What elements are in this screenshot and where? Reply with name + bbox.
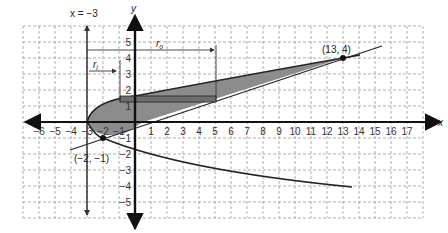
x-tick-label: 14 (353, 126, 365, 137)
y-axis-label: y (130, 3, 137, 14)
x-tick-label: 8 (260, 126, 266, 137)
x-tick-label: −4 (65, 126, 77, 137)
x-tick-label: 10 (289, 126, 301, 137)
y-tick-label: 3 (125, 69, 131, 80)
y-tick-label: −1 (120, 133, 132, 144)
x-tick-label: −6 (33, 126, 45, 137)
x-tick-labels: −6−5−4−3−2−11234567891011121314151617 (33, 126, 413, 137)
point-label-neg2-neg1: (−2, −1) (74, 153, 109, 164)
y-tick-label: −3 (120, 165, 132, 176)
x-tick-label: 2 (164, 126, 170, 137)
x-tick-label: 3 (180, 126, 186, 137)
x-tick-label: −2 (97, 126, 109, 137)
x-tick-label: −5 (49, 126, 61, 137)
y-tick-label: 4 (125, 53, 131, 64)
point-label-13-4: (13, 4) (322, 44, 351, 55)
x-tick-label: 17 (401, 126, 413, 137)
x-tick-label: 16 (385, 126, 397, 137)
x-tick-label: 15 (369, 126, 381, 137)
x-tick-label: 13 (337, 126, 349, 137)
intersection-point-13-4 (340, 55, 346, 61)
x-tick-label: 11 (306, 126, 317, 137)
y-tick-label: 1 (125, 101, 131, 112)
inner-radius-label: ri (93, 59, 98, 71)
x-tick-label: 9 (276, 126, 282, 137)
diagram-canvas: x y x = −3 (13, 4) (−2, −1) ro ri −6−5−4… (0, 0, 448, 233)
x-tick-label: 5 (212, 126, 218, 137)
x-tick-label: 1 (148, 126, 154, 137)
axis-of-rotation-label: x = −3 (70, 8, 98, 19)
y-tick-label: 2 (125, 85, 131, 96)
y-tick-label: −2 (120, 149, 132, 160)
x-tick-label: −3 (81, 126, 93, 137)
x-axis-label: x (437, 117, 444, 128)
y-tick-label: −5 (120, 197, 132, 208)
x-tick-label: 12 (321, 126, 333, 137)
y-tick-label: 5 (125, 37, 131, 48)
x-tick-label: 6 (228, 126, 234, 137)
x-tick-label: 7 (244, 126, 250, 137)
x-tick-label: 4 (196, 126, 202, 137)
y-tick-label: −4 (120, 181, 132, 192)
outer-radius-label: ro (156, 38, 163, 50)
